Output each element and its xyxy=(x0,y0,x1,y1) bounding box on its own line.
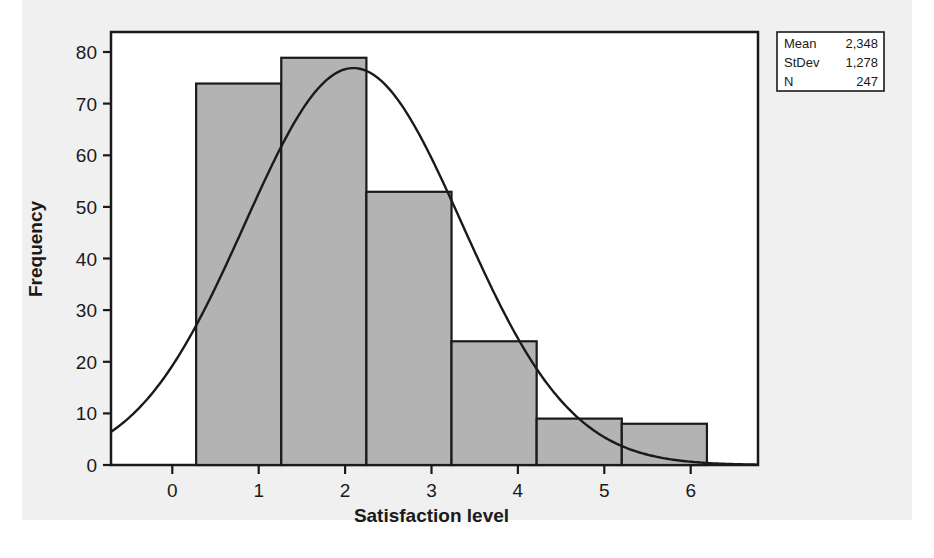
y-tick-label: 40 xyxy=(76,249,97,270)
stats-label-n: N xyxy=(784,74,793,89)
y-tick-label: 70 xyxy=(76,94,97,115)
stats-value-n: 247 xyxy=(856,74,878,89)
stats-value-stdev: 1,278 xyxy=(845,55,878,70)
y-tick-label: 20 xyxy=(76,352,97,373)
y-tick-label: 60 xyxy=(76,145,97,166)
y-tick-label: 30 xyxy=(76,300,97,321)
x-tick-label: 5 xyxy=(599,480,610,501)
histogram-screenshot: 0 10 20 30 40 50 60 70 80 Frequency 0 1 … xyxy=(0,0,934,558)
y-tick-label: 80 xyxy=(76,42,97,63)
x-axis-title: Satisfaction level xyxy=(354,505,509,526)
histogram-bar xyxy=(196,84,281,465)
x-tick-label: 1 xyxy=(253,480,264,501)
stats-label-mean: Mean xyxy=(784,36,817,51)
x-tick-label: 6 xyxy=(685,480,696,501)
stats-box: Mean 2,348 StDev 1,278 N 247 xyxy=(777,32,884,91)
y-axis-title: Frequency xyxy=(25,201,46,298)
histogram-chart: 0 10 20 30 40 50 60 70 80 Frequency 0 1 … xyxy=(0,0,934,558)
x-tick-label: 0 xyxy=(167,480,178,501)
histogram-bar xyxy=(281,58,366,465)
x-tick-labels: 0 1 2 3 4 5 6 xyxy=(167,480,696,501)
stats-value-mean: 2,348 xyxy=(845,36,878,51)
stats-label-stdev: StDev xyxy=(784,55,820,70)
y-tick-label: 10 xyxy=(76,403,97,424)
x-axis-ticks xyxy=(172,465,690,474)
x-tick-label: 3 xyxy=(426,480,437,501)
y-tick-labels: 0 10 20 30 40 50 60 70 80 xyxy=(76,42,97,476)
x-tick-label: 2 xyxy=(340,480,351,501)
histogram-bar xyxy=(452,341,537,465)
y-tick-label: 0 xyxy=(86,455,97,476)
y-tick-label: 50 xyxy=(76,197,97,218)
histogram-bar xyxy=(366,192,451,465)
histogram-bar xyxy=(537,419,622,465)
x-tick-label: 4 xyxy=(513,480,524,501)
